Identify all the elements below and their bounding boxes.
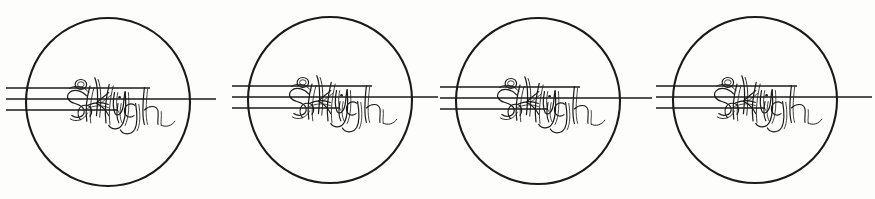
- specimen-sheet: [0, 0, 875, 199]
- logo-row-artwork: [0, 0, 875, 199]
